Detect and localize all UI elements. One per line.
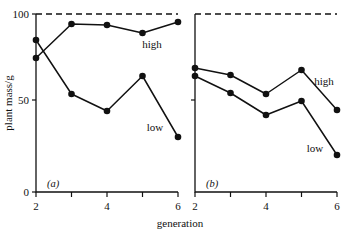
panel-b-xtick-label-4: 4: [263, 200, 269, 212]
panel-a-series-high-point: [104, 22, 111, 29]
panel-a-ytick-label-100: 100: [13, 8, 30, 20]
panel-b-xtick-label-2: 2: [192, 200, 198, 212]
panel-a-letter: (a): [47, 178, 60, 190]
panel-b-letter: (b): [206, 178, 219, 190]
panel-a-series-low-point: [33, 37, 40, 44]
panel-b-series-high-point: [298, 67, 305, 74]
panel-a-series-low-point: [104, 108, 111, 115]
panel-b-series-low-point: [192, 73, 199, 80]
panel-b-series-low-point: [263, 112, 270, 119]
panel-a-series-high-point: [33, 55, 40, 62]
panel-b-label-low: low: [307, 142, 324, 154]
panel-b-series-low-point: [334, 152, 341, 159]
panel-b-series-high-point: [263, 91, 270, 98]
panel-a-series-high-point: [175, 19, 182, 26]
panel-a-xtick-label-6: 6: [175, 200, 181, 212]
panel-a-series-low-point: [175, 134, 182, 141]
panel-a-label-high: high: [142, 38, 162, 50]
panel-b-series-high-point: [192, 65, 199, 72]
panel-b: 2 4 6 high low (b): [191, 14, 340, 212]
panel-b-xtick-label-6: 6: [334, 200, 340, 212]
panel-a-label-low: low: [147, 121, 164, 133]
panel-a-ytick-label-0: 0: [24, 186, 30, 198]
figure-container: 100 50 0 2 4 6 high low (a): [0, 0, 358, 235]
panel-b-series-low-point: [298, 98, 305, 105]
panel-a: 100 50 0 2 4 6 high low (a): [13, 8, 182, 212]
plant-mass-generation-figure: 100 50 0 2 4 6 high low (a): [0, 0, 358, 235]
y-axis-title: plant mass/g: [2, 75, 14, 131]
panel-b-series-high-point: [227, 72, 234, 79]
panel-b-series-high-point: [334, 107, 341, 114]
x-axis-title: generation: [157, 217, 204, 229]
panel-a-series-high-point: [68, 21, 75, 28]
panel-b-series-low-point: [227, 90, 234, 97]
panel-a-ytick-label-50: 50: [18, 94, 30, 106]
panel-a-xtick-label-4: 4: [104, 200, 110, 212]
panel-a-xtick-label-2: 2: [33, 200, 39, 212]
panel-b-label-high: high: [314, 75, 334, 87]
panel-a-series-low-point: [68, 91, 75, 98]
panel-a-series-high-point: [139, 30, 146, 37]
panel-b-axes: [195, 14, 337, 192]
panel-a-series-low-point: [139, 73, 146, 80]
